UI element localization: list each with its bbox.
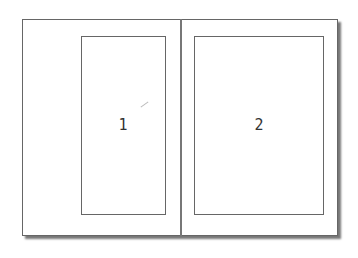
panel-2-label: 2 (254, 116, 263, 134)
panel-1-label: 1 (118, 116, 127, 134)
spine-divider (180, 19, 182, 236)
